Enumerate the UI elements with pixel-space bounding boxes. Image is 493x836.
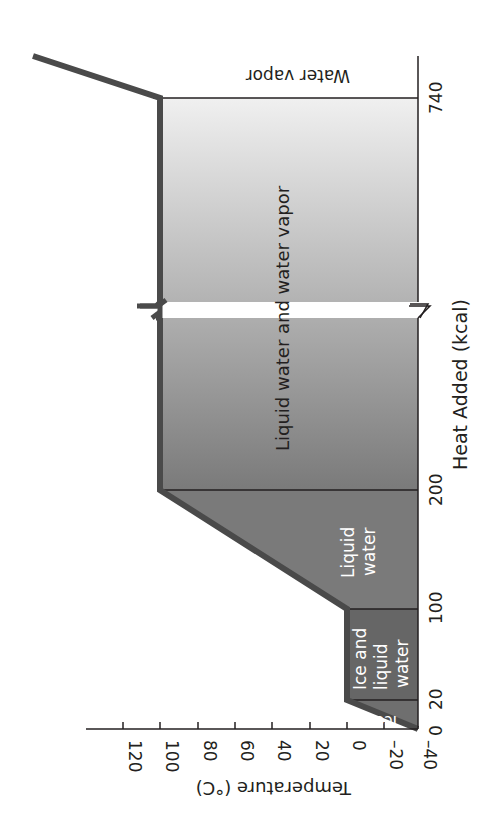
y-tick: 20 <box>312 740 332 762</box>
label-line: liquid <box>371 643 391 690</box>
y-tick: 120 <box>125 740 145 772</box>
x-tick: 0 <box>426 725 446 736</box>
region-liquid <box>160 490 418 609</box>
x-tick: 100 <box>426 592 446 624</box>
y-tick: 80 <box>200 740 220 762</box>
label-line: Ice and <box>350 628 370 690</box>
y-tick: 0 <box>349 740 369 751</box>
y-axis-title: Temperature (°C) <box>196 778 352 799</box>
y-tick: –20 <box>386 740 406 770</box>
temperature-axis <box>86 722 418 729</box>
region-label-ice: Ice <box>375 712 397 730</box>
label-line: water <box>359 528 379 576</box>
x-tick: 200 <box>426 474 446 506</box>
heating-curve-chart: 120 100 80 60 40 20 0 –20 –40 Temperatur… <box>0 0 493 836</box>
label-line: water <box>392 640 412 688</box>
region-label-liquid: Liquid water <box>338 527 379 578</box>
heating-curve-line-upper <box>33 56 160 302</box>
label-line: Liquid <box>338 527 358 578</box>
x-tick: 20 <box>426 688 446 710</box>
y-tick: –40 <box>420 740 440 770</box>
y-tick: 60 <box>237 740 257 762</box>
region-label-liquid-vapor: Liquid water and water vapor <box>272 185 293 451</box>
heat-tick-labels: 0 20 100 200 740 <box>426 82 446 736</box>
x-tick: 740 <box>426 82 446 114</box>
x-axis-title: Heat Added (kcal) <box>449 299 471 470</box>
y-tick: 100 <box>162 740 182 772</box>
temperature-tick-labels: 120 100 80 60 40 20 0 –20 –40 <box>125 740 440 772</box>
region-label-vapor: Water vapor <box>246 66 350 86</box>
y-tick: 40 <box>274 740 294 762</box>
